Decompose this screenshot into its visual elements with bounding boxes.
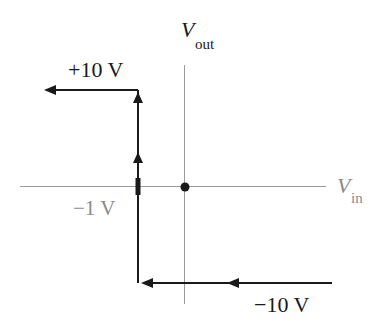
x-axis-label-subscript: in [351,190,363,206]
arrow-up-icon [133,92,143,103]
arrow-up-icon [133,152,143,163]
arrow-left-icon [141,278,153,288]
origin-dot [181,183,190,192]
threshold-label: −1 V [73,196,115,220]
upper-level-label: +10 V [68,57,124,82]
arrow-left-icon [44,85,56,95]
hysteresis-diagram: V out V in +10 V −10 V −1 V [0,0,381,326]
arrow-left-icon [227,278,239,288]
lower-level-label: −10 V [254,292,310,317]
threshold-marker [136,178,141,195]
y-axis-label-subscript: out [195,36,215,52]
